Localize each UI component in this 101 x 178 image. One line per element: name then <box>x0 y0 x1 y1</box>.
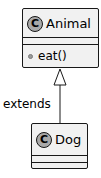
method-row: eat() <box>28 47 67 65</box>
package-visibility-dot-icon <box>28 54 33 59</box>
class-box-animal[interactable]: C Animal eat() <box>22 8 99 68</box>
method-signature: eat() <box>38 49 67 63</box>
class-name: Animal <box>46 16 91 31</box>
uml-class-diagram: C Animal eat() extends C Dog <box>0 0 101 178</box>
class-stereotype-c-icon: C <box>27 16 43 32</box>
methods-separator <box>32 162 87 163</box>
methods-separator <box>23 44 98 45</box>
class-name: Dog <box>55 132 81 147</box>
class-header: C Dog <box>32 124 87 155</box>
class-stereotype-c-icon: C <box>36 132 52 148</box>
fields-separator <box>23 37 98 38</box>
hollow-triangle-arrowhead-icon <box>54 69 66 85</box>
class-box-dog[interactable]: C Dog <box>31 123 88 169</box>
class-header: C Animal <box>23 9 98 38</box>
relation-label: extends <box>3 97 51 111</box>
fields-separator <box>32 155 87 156</box>
